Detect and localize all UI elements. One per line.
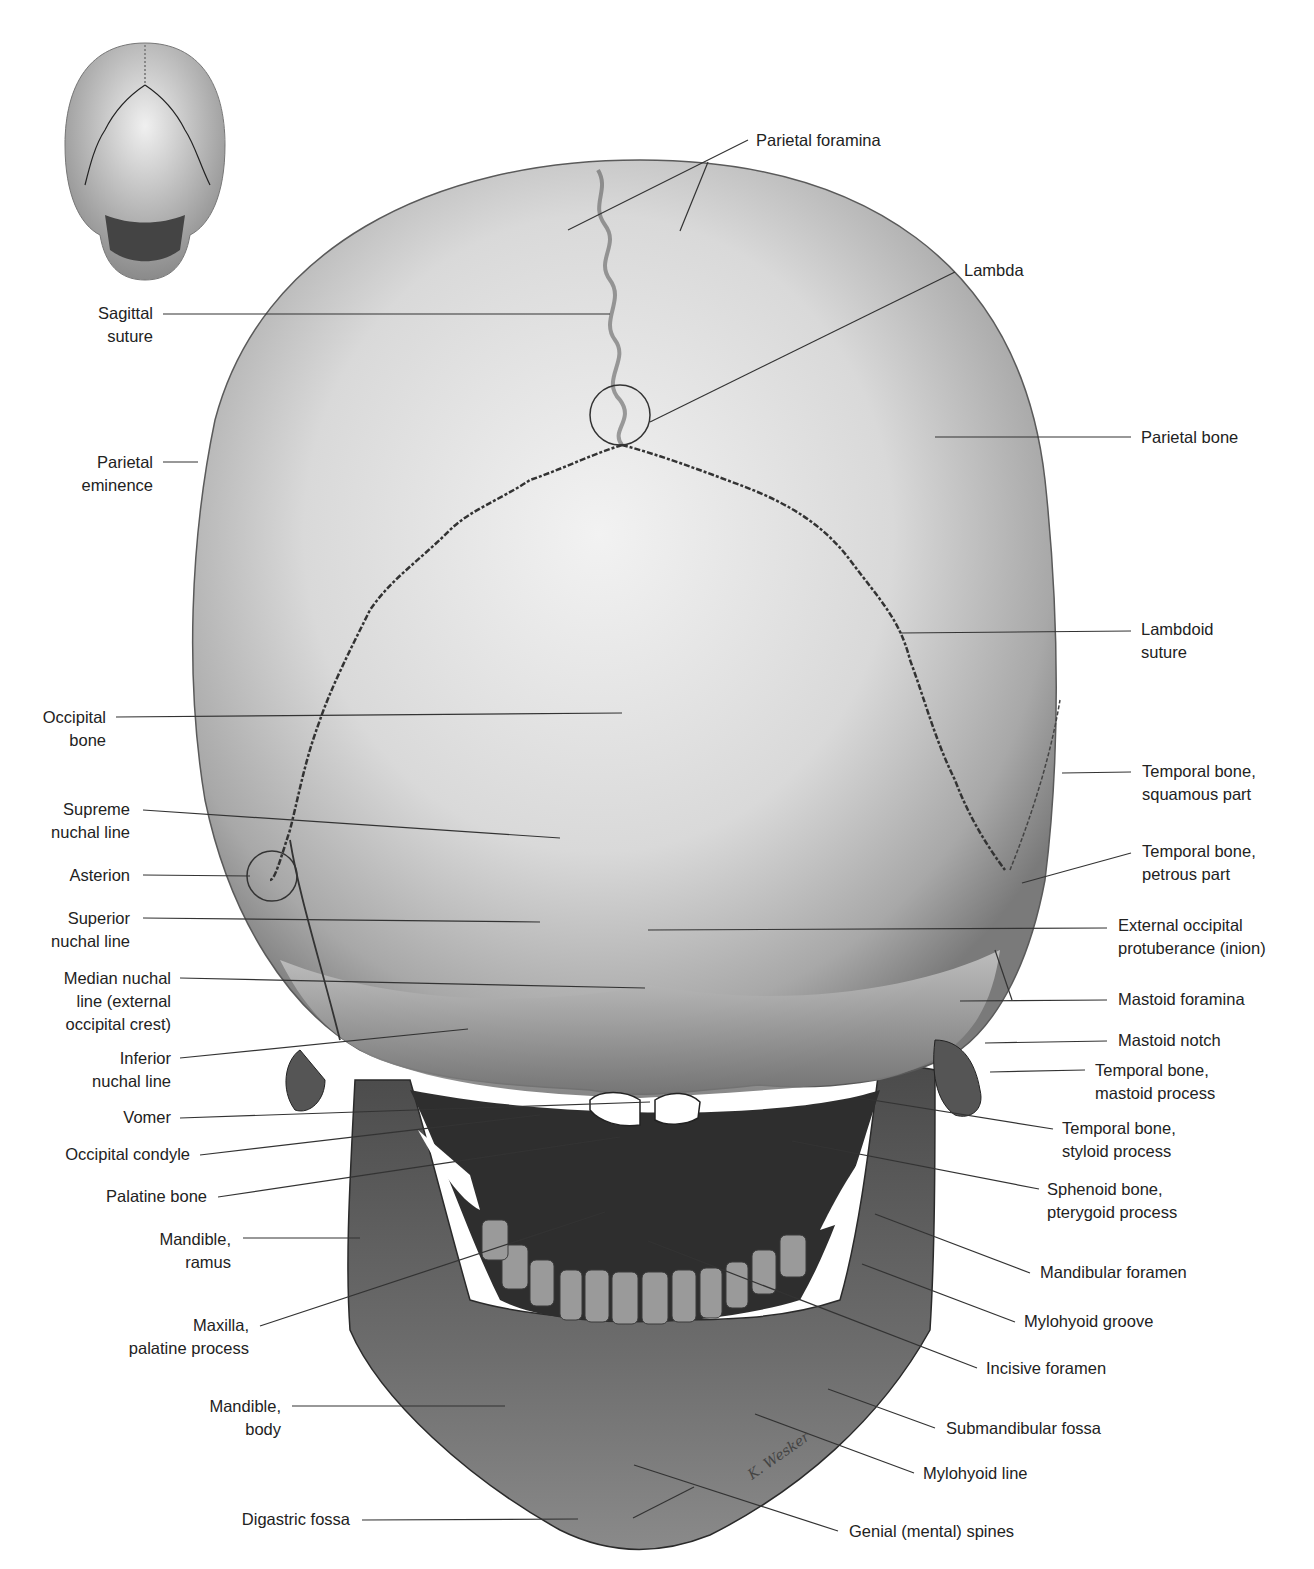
label-temporal-bone-mastoid: Temporal bone,mastoid process xyxy=(1095,1059,1215,1105)
label-mylohyoid-groove: Mylohyoid groove xyxy=(1024,1310,1153,1333)
label-mandibular-foramen: Mandibular foramen xyxy=(1040,1261,1187,1284)
label-parietal-eminence: Parietaleminence xyxy=(81,451,153,497)
label-lambdoid-suture: Lambdoidsuture xyxy=(1141,618,1213,664)
label-supreme-nuchal-line: Supremenuchal line xyxy=(51,798,130,844)
label-parietal-foramina: Parietal foramina xyxy=(756,129,881,152)
label-incisive-foramen: Incisive foramen xyxy=(986,1357,1106,1380)
label-asterion: Asterion xyxy=(69,864,130,887)
label-maxilla-palatine-process: Maxilla,palatine process xyxy=(129,1314,249,1360)
label-occipital-condyle: Occipital condyle xyxy=(65,1143,190,1166)
label-sagittal-suture: Sagittalsuture xyxy=(98,302,153,348)
label-digastric-fossa: Digastric fossa xyxy=(242,1508,350,1531)
label-superior-nuchal-line: Superiornuchal line xyxy=(51,907,130,953)
label-submandibular-fossa: Submandibular fossa xyxy=(946,1417,1101,1440)
label-palatine-bone: Palatine bone xyxy=(106,1185,207,1208)
label-genial-spines: Genial (mental) spines xyxy=(849,1520,1014,1543)
label-external-occipital-protuberance: External occipitalprotuberance (inion) xyxy=(1118,914,1266,960)
label-vomer: Vomer xyxy=(123,1106,171,1129)
label-occipital-bone: Occipitalbone xyxy=(43,706,106,752)
orientation-thumbnail xyxy=(60,35,230,285)
label-lambda: Lambda xyxy=(964,259,1024,282)
label-mastoid-notch: Mastoid notch xyxy=(1118,1029,1221,1052)
label-mandible-ramus: Mandible,ramus xyxy=(159,1228,231,1274)
label-temporal-bone-petrous: Temporal bone,petrous part xyxy=(1142,840,1256,886)
label-inferior-nuchal-line: Inferiornuchal line xyxy=(92,1047,171,1093)
skull-posterior-diagram: K. Wesker Sagittalsuture Parietaleminenc… xyxy=(0,0,1314,1569)
label-temporal-bone-styloid: Temporal bone,styloid process xyxy=(1062,1117,1176,1163)
label-median-nuchal-line: Median nuchalline (externaloccipital cre… xyxy=(64,967,171,1036)
label-mylohyoid-line: Mylohyoid line xyxy=(923,1462,1028,1485)
cranium-shape xyxy=(193,160,1057,1094)
label-temporal-bone-squamous: Temporal bone,squamous part xyxy=(1142,760,1256,806)
label-mandible-body: Mandible,body xyxy=(209,1395,281,1441)
label-mastoid-foramina: Mastoid foramina xyxy=(1118,988,1245,1011)
label-parietal-bone: Parietal bone xyxy=(1141,426,1238,449)
label-sphenoid-pterygoid: Sphenoid bone,pterygoid process xyxy=(1047,1178,1177,1224)
